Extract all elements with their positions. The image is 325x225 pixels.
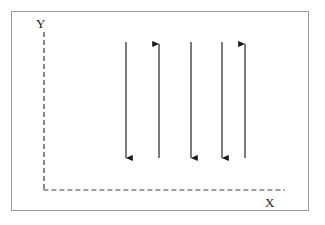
vector-field-plot (0, 0, 325, 225)
x-axis-label: X (265, 196, 275, 209)
dashed-axes (43, 32, 285, 190)
y-axis-label: Y (36, 17, 46, 30)
diagram-canvas: Y X (0, 0, 325, 225)
arrow-group (126, 42, 245, 158)
